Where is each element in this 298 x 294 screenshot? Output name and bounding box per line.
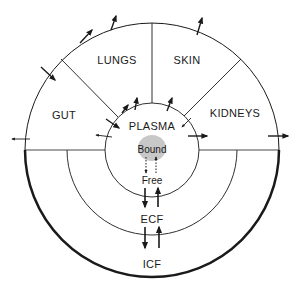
lungs-outer-arrow-2 [111,16,116,30]
label-ecf: ECF [141,213,164,225]
label-lungs: LUNGS [97,54,136,66]
label-skin: SKIN [174,54,201,66]
gut-outer-arrow [41,67,55,80]
label-bound: Bound [138,144,167,155]
pharmacokinetic-compartment-diagram: LUNGS SKIN GUT KIDNEYS PLASMA Bound Free… [0,0,298,294]
label-free: Free [142,175,163,186]
label-kidneys: KIDNEYS [210,107,260,119]
label-gut: GUT [52,109,76,121]
label-plasma: PLASMA [129,120,176,132]
label-icf: ICF [143,258,162,270]
